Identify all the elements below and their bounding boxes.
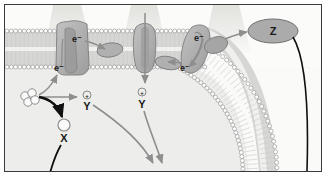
lipid-head <box>104 65 108 69</box>
proton-plus: + <box>85 93 89 99</box>
lipid-head <box>225 58 229 62</box>
lipid-head <box>236 138 240 142</box>
x-molecule-shape <box>58 119 70 131</box>
lipid-head <box>18 29 22 33</box>
lipid-head <box>39 29 43 33</box>
lipid-head <box>221 55 225 59</box>
lipid-head <box>266 119 270 123</box>
lipid-head <box>240 159 244 163</box>
lipid-head <box>95 65 99 69</box>
lipid-head <box>241 163 245 167</box>
lipid-head <box>249 86 253 90</box>
lipid-head <box>31 65 35 69</box>
figure-root: e⁻ e⁻ e⁻ e⁻ <box>0 0 326 176</box>
carrier-y2-label: Y <box>138 98 146 110</box>
lipid-head <box>240 155 244 159</box>
lipid-head <box>91 29 95 33</box>
lipid-head <box>14 65 18 69</box>
lipid-head <box>173 29 177 33</box>
lipid-head <box>177 29 181 33</box>
lipid-head <box>27 29 31 33</box>
lipid-head <box>52 29 56 33</box>
carrier-y1-label: Y <box>83 100 91 112</box>
lipid-head <box>5 65 9 69</box>
lipid-head <box>229 119 233 123</box>
lipid-head <box>262 109 266 113</box>
lipid-head <box>274 155 278 159</box>
lipid-head <box>235 135 239 139</box>
lipid-head <box>156 29 160 33</box>
lipid-head <box>48 65 52 69</box>
electron-label-psii-bottom: e⁻ <box>54 63 64 73</box>
lipid-head <box>31 29 35 33</box>
lipid-head <box>91 65 95 69</box>
lipid-head <box>100 65 104 69</box>
lipid-head <box>130 29 134 33</box>
lipid-head <box>270 134 274 138</box>
lipid-head <box>27 65 31 69</box>
lipid-head <box>108 65 112 69</box>
lipid-head <box>95 29 99 33</box>
lipid-head <box>100 29 104 33</box>
lipid-head <box>5 29 9 33</box>
lipid-head <box>181 29 185 33</box>
lipid-head <box>39 65 43 69</box>
lipid-head <box>264 114 268 118</box>
lipid-head <box>108 29 112 33</box>
diagram-canvas: e⁻ e⁻ e⁻ e⁻ <box>5 5 321 171</box>
x-label: X <box>60 132 68 144</box>
lipid-head <box>236 69 240 73</box>
lipid-head <box>241 167 245 171</box>
lipid-head <box>260 104 264 108</box>
lipid-head <box>44 29 48 33</box>
lipid-head <box>272 139 276 143</box>
lipid-head <box>232 127 236 131</box>
electron-label-psii-top: e⁻ <box>72 34 82 44</box>
substrate-unit <box>31 96 39 104</box>
lipid-head <box>22 65 26 69</box>
lipid-head <box>117 65 121 69</box>
lipid-head <box>35 65 39 69</box>
lipid-head <box>121 29 125 33</box>
lipid-head <box>44 65 48 69</box>
proton-plus: + <box>140 90 144 96</box>
lipid-head <box>164 29 168 33</box>
lipid-head <box>121 65 125 69</box>
lipid-head <box>268 124 272 128</box>
lipid-head <box>269 129 273 133</box>
lipid-head <box>104 29 108 33</box>
lipid-head <box>113 29 117 33</box>
lipid-head <box>257 100 261 104</box>
lipid-head <box>117 29 121 33</box>
lipid-head <box>273 145 277 149</box>
lipid-head <box>22 29 26 33</box>
lipid-head <box>48 29 52 33</box>
lipid-head <box>35 29 39 33</box>
lipid-head <box>231 123 235 127</box>
lipid-head <box>275 160 279 164</box>
lipid-head <box>275 166 279 170</box>
lipid-head <box>113 65 117 69</box>
lipid-head <box>14 29 18 33</box>
lipid-head <box>274 150 278 154</box>
lipid-head <box>239 73 243 77</box>
lipid-head <box>243 77 247 81</box>
lipid-head <box>252 90 256 94</box>
bilayer-heads-top <box>5 29 207 33</box>
lipid-head <box>18 65 22 69</box>
lipid-head <box>255 95 259 99</box>
figure-frame: e⁻ e⁻ e⁻ e⁻ <box>4 4 322 172</box>
lipid-head <box>9 65 13 69</box>
lipid-head <box>125 29 129 33</box>
z-molecule[interactable]: Z <box>248 19 298 43</box>
lipid-head <box>234 131 238 135</box>
lipid-head <box>160 29 164 33</box>
lipid-head <box>9 29 13 33</box>
lipid-head <box>130 65 134 69</box>
lipid-head <box>168 29 172 33</box>
lipid-head <box>246 82 250 86</box>
lipid-head <box>125 65 129 69</box>
lipid-head <box>239 151 243 155</box>
lipid-head <box>229 62 233 66</box>
lipid-head <box>232 65 236 69</box>
